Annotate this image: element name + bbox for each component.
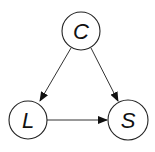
node-s-label: S (121, 108, 136, 133)
node-l-label: L (22, 108, 34, 133)
causal-diagram: C L S (0, 0, 155, 152)
edge-c-to-s (91, 48, 118, 101)
node-c-label: C (73, 19, 89, 44)
node-l: L (9, 101, 47, 139)
edge-c-to-l (40, 48, 71, 101)
node-s: S (108, 100, 148, 140)
edges (40, 48, 118, 120)
node-c: C (62, 12, 100, 50)
